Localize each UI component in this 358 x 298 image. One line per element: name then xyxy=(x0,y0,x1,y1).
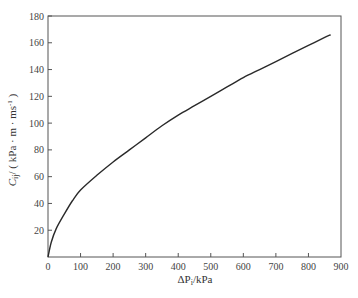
y-tick-label: 120 xyxy=(29,91,44,102)
y-tick-label: 100 xyxy=(29,118,44,129)
y-tick-label: 180 xyxy=(29,11,44,22)
y-tick-label: 20 xyxy=(34,225,44,236)
y-tick-label: 160 xyxy=(29,37,44,48)
line-chart: 20406080100120140160180 0100200300400500… xyxy=(0,0,358,298)
data-line xyxy=(48,35,331,257)
y-axis-ticks: 20406080100120140160180 xyxy=(29,11,52,236)
x-tick-label: 200 xyxy=(106,261,121,272)
y-tick-label: 40 xyxy=(34,198,44,209)
x-tick-label: 800 xyxy=(301,261,316,272)
x-tick-label: 600 xyxy=(236,261,251,272)
x-tick-label: 300 xyxy=(138,261,153,272)
x-tick-label: 700 xyxy=(268,261,283,272)
y-axis-title: Cij/ ( kPa · m · ms-1 ) xyxy=(6,93,20,186)
x-tick-label: 100 xyxy=(73,261,88,272)
plot-frame xyxy=(48,16,341,257)
x-tick-label: 900 xyxy=(334,261,349,272)
y-tick-label: 80 xyxy=(34,144,44,155)
y-tick-label: 140 xyxy=(29,64,44,75)
x-tick-label: 500 xyxy=(203,261,218,272)
y-tick-label: 60 xyxy=(34,171,44,182)
x-axis-title: ΔPi/kPa xyxy=(178,273,213,287)
x-axis-ticks: 0100200300400500600700800900 xyxy=(46,253,349,272)
x-tick-label: 0 xyxy=(46,261,51,272)
x-tick-label: 400 xyxy=(171,261,186,272)
